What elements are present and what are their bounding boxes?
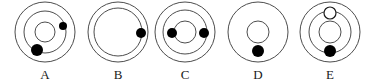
- c-nucleus-circle: [174, 21, 196, 43]
- e-solid-electron: [324, 45, 336, 57]
- c-left-electron: [167, 28, 177, 38]
- a-large-electron: [31, 44, 43, 56]
- d-nucleus-circle: [247, 21, 269, 43]
- diagram-label-b: B: [98, 68, 138, 81]
- diagram-label-c: C: [165, 68, 205, 81]
- diagram-d: [228, 2, 288, 62]
- e-hollow-electron: [324, 7, 336, 19]
- atomic-diagram-figure: ABCDE: [0, 0, 378, 84]
- diagram-label-a: A: [25, 68, 65, 81]
- diagram-label-d: D: [238, 68, 278, 81]
- e-nucleus-circle: [319, 21, 341, 43]
- diagram-label-e: E: [310, 68, 350, 81]
- diagram-e: [300, 2, 360, 62]
- c-right-electron: [199, 28, 209, 38]
- b-electron: [136, 28, 146, 38]
- a-middle-ring: [24, 11, 66, 53]
- diagram-c: [155, 2, 215, 62]
- a-nucleus-circle: [35, 22, 55, 42]
- diagram-b: [88, 2, 148, 62]
- b-inner-ring: [94, 8, 142, 56]
- a-small-electron: [59, 22, 67, 30]
- d-electron: [252, 45, 264, 57]
- diagram-a: [15, 2, 75, 62]
